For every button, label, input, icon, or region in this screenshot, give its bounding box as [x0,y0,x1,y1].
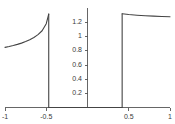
y-tick-label: 0.8 [58,46,82,54]
x-tick-label: 1 [158,113,175,121]
y-tick-label: 1 [58,32,82,40]
chart-canvas [0,0,175,124]
y-tick-label: 1.2 [58,18,82,26]
y-tick-label: 0.6 [58,61,82,69]
series-branch-right [122,14,170,17]
x-tick-label: 0.5 [117,113,141,121]
y-tick-label: 0.2 [58,89,82,97]
plot-area: 0.20.40.60.811.2 -1-0.50.51 [0,0,175,124]
y-tick-label: 0.4 [58,75,82,83]
series-branch-left [5,14,49,47]
axis-group [5,8,170,111]
x-tick-label: -1 [0,113,17,121]
x-tick-label: -0.5 [34,113,58,121]
